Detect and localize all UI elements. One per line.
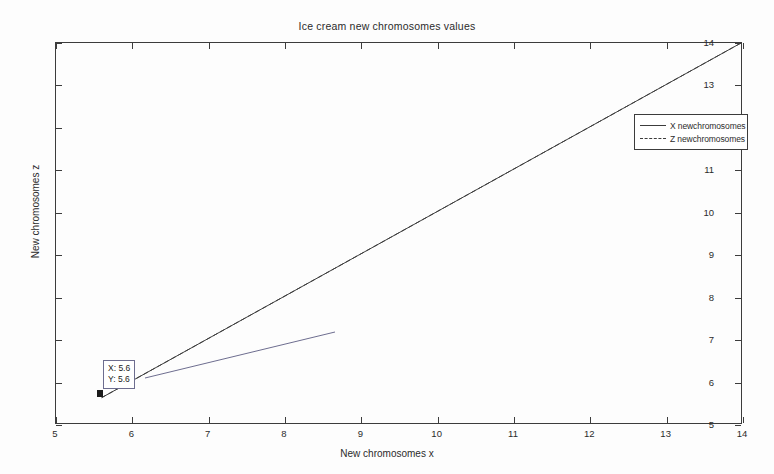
x-tick-mark [590, 417, 591, 423]
figure-canvas: Ice cream new chromosomes values 5678910… [0, 0, 774, 474]
y-tick-mark [56, 383, 62, 384]
x-tick-mark [743, 417, 744, 423]
y-tick-mark [56, 298, 62, 299]
x-tick-mark-top [209, 43, 210, 49]
x-tick-mark-top [132, 43, 133, 49]
legend-item-x[interactable]: X newchromosomes [638, 119, 744, 132]
x-tick-label: 5 [40, 428, 70, 439]
y-tick-mark-right [735, 255, 741, 256]
data-cursor-tooltip[interactable]: X: 5.6 Y: 5.6 [103, 360, 135, 389]
x-tick-mark [361, 417, 362, 423]
y-tick-mark-right [735, 43, 741, 44]
x-tick-mark [667, 417, 668, 423]
x-tick-label: 8 [269, 428, 299, 439]
y-tick-mark [56, 425, 62, 426]
y-tick-label: 14 [684, 37, 714, 48]
selected-data-point-marker[interactable] [97, 390, 103, 397]
y-tick-label: 10 [684, 206, 714, 217]
x-tick-label: 9 [345, 428, 375, 439]
y-tick-mark [56, 255, 62, 256]
y-tick-label: 11 [684, 164, 714, 175]
x-tick-mark-top [514, 43, 515, 49]
y-tick-mark [56, 85, 62, 86]
datatip-x-value: X: 5.6 [108, 363, 130, 374]
x-tick-label: 6 [116, 428, 146, 439]
y-tick-mark-right [735, 213, 741, 214]
x-tick-label: 13 [651, 428, 681, 439]
x-tick-mark-top [667, 43, 668, 49]
y-tick-label: 6 [684, 376, 714, 387]
series-lines [56, 43, 741, 423]
legend-line-swatch-dashed-icon [640, 138, 666, 139]
legend-box[interactable]: X newchromosomes Z newchromosomes [634, 114, 748, 150]
y-tick-mark-right [735, 425, 741, 426]
y-tick-label: 9 [684, 249, 714, 260]
y-axis-label: New chromosomes z [30, 82, 41, 342]
y-tick-mark-right [735, 170, 741, 171]
y-tick-mark [56, 213, 62, 214]
x-tick-mark-top [56, 43, 57, 49]
x-tick-mark-top [590, 43, 591, 49]
y-tick-mark [56, 128, 62, 129]
x-axis-label: New chromosomes x [0, 448, 774, 459]
x-tick-mark-top [285, 43, 286, 49]
y-tick-label: 13 [684, 79, 714, 90]
y-tick-mark [56, 170, 62, 171]
y-tick-mark-right [735, 298, 741, 299]
y-tick-mark-right [735, 85, 741, 86]
legend-label-z: Z newchromosomes [670, 134, 745, 144]
x-tick-label: 14 [727, 428, 757, 439]
x-tick-mark [132, 417, 133, 423]
x-tick-mark [285, 417, 286, 423]
y-tick-mark [56, 340, 62, 341]
x-tick-label: 10 [422, 428, 452, 439]
plot-area[interactable] [55, 42, 742, 424]
x-tick-mark [209, 417, 210, 423]
legend-item-z[interactable]: Z newchromosomes [638, 132, 744, 145]
x-tick-mark-top [743, 43, 744, 49]
x-tick-mark [56, 417, 57, 423]
x-tick-mark [438, 417, 439, 423]
x-tick-label: 11 [498, 428, 528, 439]
y-tick-mark-right [735, 383, 741, 384]
x-tick-mark [514, 417, 515, 423]
datatip-y-value: Y: 5.6 [108, 374, 130, 385]
y-tick-label: 8 [684, 291, 714, 302]
y-tick-label: 5 [684, 419, 714, 430]
legend-label-x: X newchromosomes [670, 121, 745, 131]
chart-title: Ice cream new chromosomes values [0, 20, 774, 32]
x-tick-label: 7 [193, 428, 223, 439]
x-tick-mark-top [361, 43, 362, 49]
x-tick-mark-top [438, 43, 439, 49]
legend-line-swatch-solid-icon [640, 125, 666, 127]
series-line-x [102, 43, 741, 398]
y-tick-label: 7 [684, 334, 714, 345]
x-tick-label: 12 [574, 428, 604, 439]
y-tick-mark-right [735, 340, 741, 341]
